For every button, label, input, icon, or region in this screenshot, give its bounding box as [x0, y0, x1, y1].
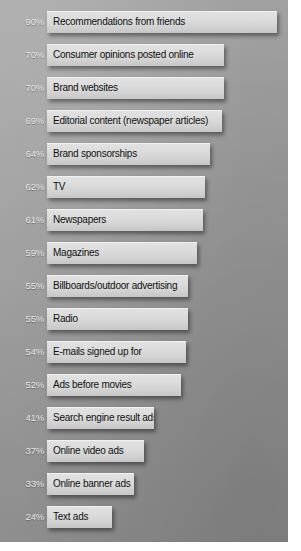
bar-category-label: E-mails signed up for [53, 341, 142, 363]
bar-category-label: Radio [53, 308, 78, 330]
bar-row: 59%Magazines [0, 242, 288, 266]
bar-value-label: 90% [0, 15, 44, 29]
bar-value-label: 62% [0, 180, 44, 194]
bar-category-label: Online banner ads [53, 473, 130, 495]
bar-value-label: 69% [0, 114, 44, 128]
bar-segment: Magazines [47, 242, 197, 264]
bar-row: 70%Brand websites [0, 77, 288, 101]
bar-row: 33%Online banner ads [0, 473, 288, 497]
bar-value-label: 55% [0, 312, 44, 326]
bars-container: 90%Recommendations from friends70%Consum… [0, 0, 288, 542]
bar-value-label: 55% [0, 279, 44, 293]
bar-value-label: 70% [0, 81, 44, 95]
bar-value-label: 64% [0, 147, 44, 161]
bar-chart: 90%Recommendations from friends70%Consum… [0, 0, 301, 551]
bar-segment: Online banner ads [47, 473, 134, 495]
bar-row: 70%Consumer opinions posted online [0, 44, 288, 68]
bar-segment: Ads before movies [47, 374, 181, 396]
bar-value-label: 33% [0, 477, 44, 491]
bar-segment: Recommendations from friends [47, 11, 277, 33]
bar-segment: Online video ads [47, 440, 144, 462]
bar-category-label: Ads before movies [53, 374, 132, 396]
bar-segment: Editorial content (newspaper articles) [47, 110, 222, 132]
bar-row: 55%Radio [0, 308, 288, 332]
bar-value-label: 61% [0, 213, 44, 227]
bar-row: 37%Online video ads [0, 440, 288, 464]
panel-bottom-edge [0, 542, 301, 551]
bar-row: 54%E-mails signed up for [0, 341, 288, 365]
bar-row: 52%Ads before movies [0, 374, 288, 398]
bar-row: 90%Recommendations from friends [0, 11, 288, 35]
bar-value-label: 24% [0, 510, 44, 524]
bar-row: 61%Newspapers [0, 209, 288, 233]
bar-row: 24%Text ads [0, 506, 288, 530]
bar-category-label: Brand sponsorships [53, 143, 137, 165]
bar-segment: E-mails signed up for [47, 341, 186, 363]
bar-category-label: Consumer opinions posted online [53, 44, 194, 66]
bar-category-label: Text ads [53, 506, 88, 528]
bar-row: 62%TV [0, 176, 288, 200]
bar-segment: Text ads [47, 506, 112, 528]
bar-value-label: 54% [0, 345, 44, 359]
bar-value-label: 37% [0, 444, 44, 458]
bar-value-label: 59% [0, 246, 44, 260]
bar-segment: Consumer opinions posted online [47, 44, 224, 66]
bar-row: 69%Editorial content (newspaper articles… [0, 110, 288, 134]
bar-category-label: Billboards/outdoor advertising [53, 275, 177, 297]
bar-category-label: TV [53, 176, 65, 198]
bar-segment: Radio [47, 308, 188, 330]
bar-row: 55%Billboards/outdoor advertising [0, 275, 288, 299]
bar-segment: TV [47, 176, 205, 198]
bar-value-label: 52% [0, 378, 44, 392]
bar-segment: Brand websites [47, 77, 224, 99]
bar-segment: Newspapers [47, 209, 203, 231]
bar-category-label: Recommendations from friends [53, 11, 185, 33]
bar-category-label: Magazines [53, 242, 99, 264]
bar-category-label: Editorial content (newspaper articles) [53, 110, 208, 132]
bar-value-label: 41% [0, 411, 44, 425]
bar-category-label: Newspapers [53, 209, 106, 231]
bar-value-label: 70% [0, 48, 44, 62]
bar-category-label: Search engine result ads [53, 407, 154, 429]
bar-segment: Billboards/outdoor advertising [47, 275, 188, 297]
bar-row: 41%Search engine result ads [0, 407, 288, 431]
bar-category-label: Brand websites [53, 77, 118, 99]
bar-segment: Search engine result ads [47, 407, 154, 429]
bar-segment: Brand sponsorships [47, 143, 210, 165]
panel-right-edge [288, 0, 301, 551]
bar-category-label: Online video ads [53, 440, 124, 462]
bar-row: 64%Brand sponsorships [0, 143, 288, 167]
